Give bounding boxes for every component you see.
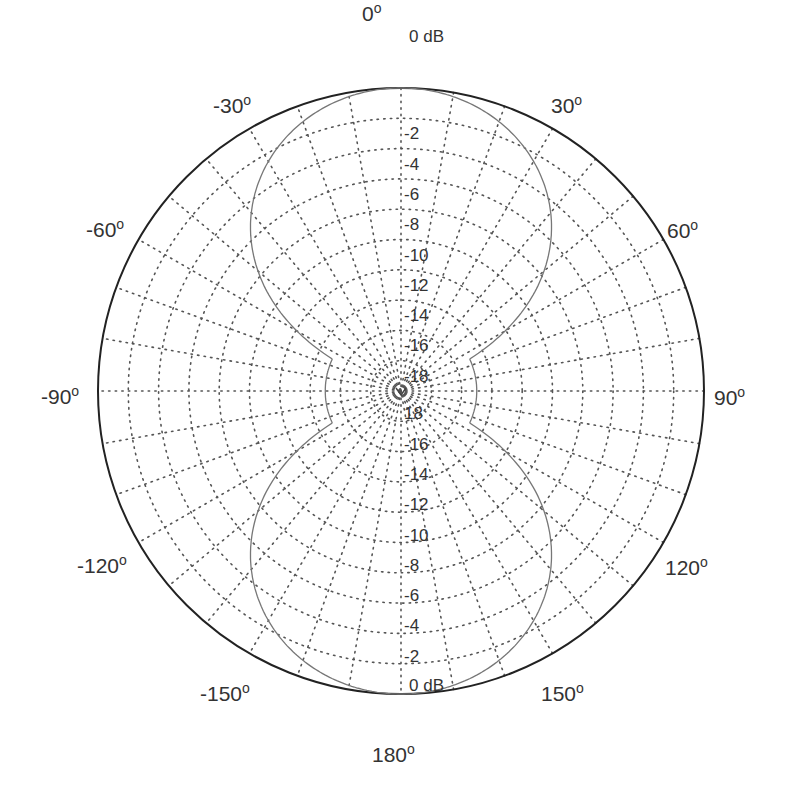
- db-tick-label: -6: [404, 586, 419, 605]
- angle-label-minus-90: -90o: [41, 383, 79, 408]
- db-tick-label: -6: [404, 185, 419, 204]
- db-tick-label: -2: [404, 647, 419, 666]
- db-tick-label: -16: [404, 336, 429, 355]
- db-tick-label: 18: [404, 404, 423, 423]
- angle-label-90: 90o: [714, 384, 745, 409]
- db-label-top-0: 0 dB: [409, 27, 444, 46]
- angle-label-minus-60: -60o: [86, 216, 124, 241]
- db-tick-label: -4: [404, 616, 419, 635]
- angle-label-150: 150o: [541, 680, 584, 705]
- db-tick-label: -8: [404, 215, 419, 234]
- db-tick-label: -18: [404, 367, 429, 386]
- angle-label-30: 30o: [551, 92, 582, 117]
- angle-label-60: 60o: [667, 217, 698, 242]
- angle-label-minus-150: -150o: [200, 680, 250, 705]
- db-tick-labels-lower: 18-16-14-12-10-8-6-4-2: [404, 404, 429, 665]
- db-tick-label: -16: [404, 435, 429, 454]
- db-tick-label: -12: [404, 495, 429, 514]
- db-tick-label: -2: [404, 124, 419, 143]
- db-tick-label: -12: [404, 276, 429, 295]
- db-tick-label: -14: [404, 306, 429, 325]
- db-tick-label: -14: [404, 465, 429, 484]
- db-tick-label: -10: [404, 246, 429, 265]
- angle-label-180: 180o: [372, 741, 415, 766]
- angle-label-0: 0o: [362, 0, 382, 25]
- db-tick-label: -4: [404, 155, 419, 174]
- angle-label-minus-120: -120o: [77, 552, 127, 577]
- angle-label-120: 120o: [665, 554, 708, 579]
- db-tick-labels-upper: -2-4-6-8-10-12-14-16-18: [404, 124, 429, 385]
- db-tick-label: -10: [404, 526, 429, 545]
- polar-chart: 0o 30o 60o 90o 120o 150o 180o -150o -120…: [0, 0, 789, 786]
- angle-label-minus-30: -30o: [213, 92, 251, 117]
- db-label-bottom-0: 0 dB: [409, 676, 444, 695]
- db-tick-label: -8: [404, 556, 419, 575]
